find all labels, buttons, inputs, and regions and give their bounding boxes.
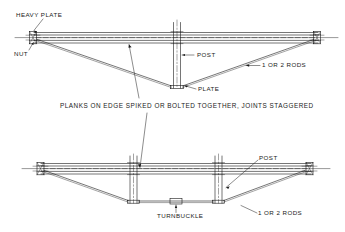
bottom-right-post [213, 154, 225, 203]
bottom-left-post [128, 154, 140, 203]
label-rods-bottom: 1 OR 2 RODS [258, 210, 302, 216]
label-post-top: POST [197, 52, 216, 58]
top-figure-leaders [29, 19, 260, 89]
bottom-figure-group [22, 154, 330, 213]
technical-drawing-canvas [0, 0, 345, 232]
caption-planks-note: PLANKS ON EDGE SPIKED OR BOLTED TOGETHER… [60, 103, 314, 109]
bottom-tension-rods [44, 170, 305, 202]
top-figure-group [15, 19, 338, 89]
label-plate: PLATE [198, 86, 219, 92]
label-rods-top: 1 OR 2 RODS [262, 62, 306, 68]
bottom-figure-leaders [175, 160, 258, 213]
label-heavy-plate: HEAVY PLATE [16, 12, 62, 18]
top-centre-post [171, 20, 183, 88]
label-post-bottom: POST [259, 155, 278, 161]
drawing-sheet: HEAVY PLATE NUT POST PLATE 1 OR 2 RODS P… [0, 0, 345, 232]
label-turnbuckle: TURNBUCKLE [157, 213, 203, 219]
label-nut: NUT [14, 51, 28, 57]
